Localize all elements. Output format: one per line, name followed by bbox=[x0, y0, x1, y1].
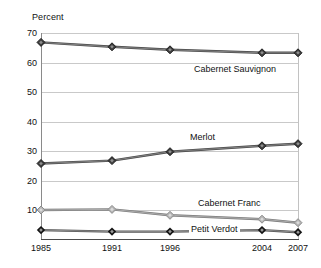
gridline-40 bbox=[41, 122, 299, 123]
x-axis-line bbox=[41, 239, 299, 240]
y-tick-label: 50 bbox=[7, 87, 37, 97]
plot-right-border bbox=[298, 33, 299, 240]
y-tick-label: 40 bbox=[7, 117, 37, 127]
y-tick-label: 20 bbox=[7, 176, 37, 186]
y-axis-tick-labels: 70 60 50 40 30 20 10 bbox=[0, 0, 37, 268]
gridline-10 bbox=[41, 210, 299, 211]
x-tick-label: 1991 bbox=[102, 243, 122, 253]
series-label-cabernet-sauvignon: Cabernet Sauvignon bbox=[192, 64, 278, 74]
y-tick-label: 70 bbox=[7, 28, 37, 38]
series-label-petit-verdot: Petit Verdot bbox=[189, 224, 240, 234]
gridline-70 bbox=[41, 33, 299, 34]
x-tick-label: 2004 bbox=[252, 243, 272, 253]
y-tick-label: 60 bbox=[7, 58, 37, 68]
y-tick-label: 10 bbox=[7, 205, 37, 215]
x-tick-label: 1985 bbox=[31, 243, 51, 253]
y-tick-label: 30 bbox=[7, 146, 37, 156]
line-chart: Percent 70 60 50 40 30 20 10 bbox=[0, 0, 321, 268]
gridline-20 bbox=[41, 181, 299, 182]
series-label-merlot: Merlot bbox=[188, 132, 217, 142]
x-tick-label: 1996 bbox=[160, 243, 180, 253]
x-tick-label: 2007 bbox=[288, 243, 308, 253]
gridline-50 bbox=[41, 92, 299, 93]
gridline-30 bbox=[41, 151, 299, 152]
y-axis-line bbox=[41, 33, 42, 240]
series-label-cabernet-franc: Cabernet Franc bbox=[196, 198, 263, 208]
